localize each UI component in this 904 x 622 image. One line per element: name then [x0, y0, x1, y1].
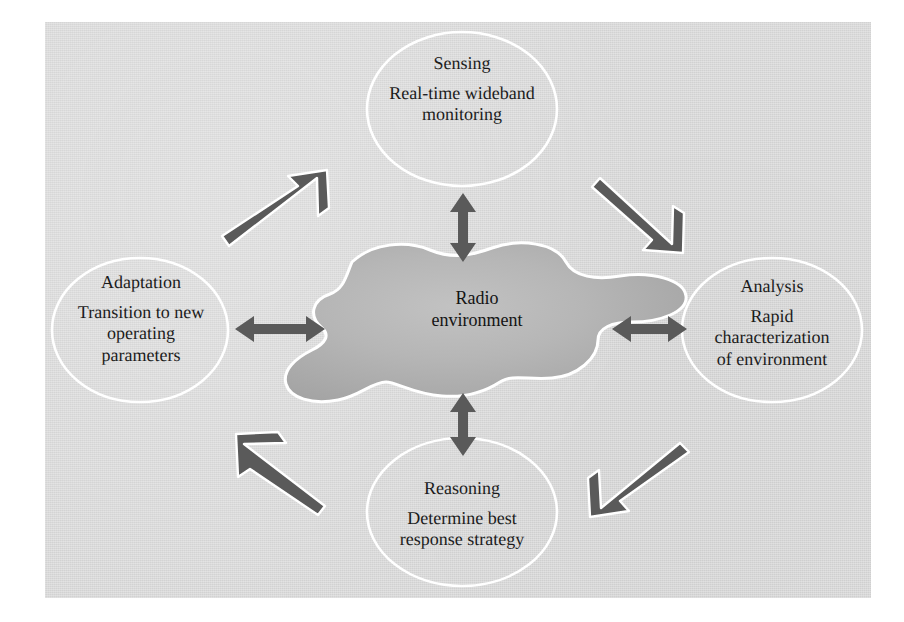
bidirectional-arrow-adaptation-center	[235, 316, 325, 342]
node-ellipse-analysis[interactable]	[682, 258, 862, 402]
node-ellipse-adaptation[interactable]	[52, 258, 228, 402]
figure-page: Radio environment Sensing Real-time wide…	[0, 0, 904, 622]
bidirectional-arrow-reasoning-center	[450, 393, 476, 456]
cognitive-radio-cycle-diagram	[0, 0, 904, 622]
cycle-arrow-analysis-to-reasoning	[588, 443, 689, 517]
bidirectional-arrow-sensing-center	[450, 193, 476, 262]
cycle-arrow-reasoning-to-adaptation	[236, 432, 325, 515]
node-ellipse-reasoning[interactable]	[367, 438, 557, 586]
node-ellipse-sensing[interactable]	[367, 32, 557, 186]
cycle-arrow-sensing-to-analysis	[592, 178, 684, 253]
cycle-arrow-adaptation-to-sensing	[222, 170, 329, 246]
